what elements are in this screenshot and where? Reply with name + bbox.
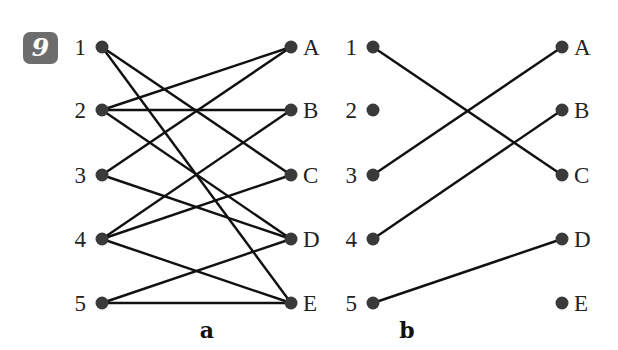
node-B [556,104,569,117]
node-3 [367,169,380,182]
node-label: A [303,35,320,60]
node-label: 2 [346,98,358,123]
bipartite-graphs: 12345ABCDEa12345ABCDEb [0,0,618,350]
graph-a: 12345ABCDEa [75,35,321,343]
node-label: 1 [75,35,87,60]
node-label: 2 [75,98,87,123]
node-5 [367,297,380,310]
node-E [285,297,298,310]
node-label: E [574,291,588,316]
node-label: C [574,163,589,188]
graph-b: 12345ABCDEb [346,35,592,343]
node-label: 4 [346,227,358,252]
node-2 [367,104,380,117]
node-3 [96,169,109,182]
graph-caption: a [200,317,214,343]
node-label: C [303,163,318,188]
node-C [556,169,569,182]
node-label: 3 [346,163,358,188]
node-label: 5 [75,291,87,316]
edge-5-D [373,239,562,303]
node-2 [96,104,109,117]
node-C [285,169,298,182]
node-1 [367,41,380,54]
node-label: B [303,98,318,123]
node-1 [96,41,109,54]
node-4 [96,233,109,246]
edge-2-A [102,47,291,110]
node-label: E [303,291,317,316]
node-B [285,104,298,117]
node-label: B [574,98,589,123]
node-A [285,41,298,54]
node-label: D [303,227,320,252]
node-D [285,233,298,246]
node-label: 5 [346,291,358,316]
node-5 [96,297,109,310]
node-D [556,233,569,246]
graph-caption: b [399,317,414,343]
node-label: D [574,227,591,252]
edge-4-B [373,110,562,239]
node-label: A [574,35,591,60]
node-label: 4 [75,227,87,252]
node-4 [367,233,380,246]
node-A [556,41,569,54]
node-label: 3 [75,163,87,188]
node-label: 1 [346,35,358,60]
node-E [556,297,569,310]
